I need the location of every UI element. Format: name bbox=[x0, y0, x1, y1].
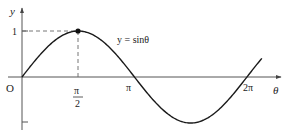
y-axis-label: y bbox=[9, 5, 15, 17]
x-tick-label-pi: π bbox=[126, 82, 131, 93]
origin-label: O bbox=[6, 82, 14, 94]
x-tick-label-pi-half-den: 2 bbox=[75, 98, 80, 109]
x-tick-label-2pi: 2π bbox=[243, 82, 253, 93]
sine-chart: y 1 O π 2 π 2π θ y = sinθ bbox=[0, 0, 287, 132]
y-tick-label-1: 1 bbox=[12, 26, 17, 37]
x-axis-label: θ bbox=[273, 84, 279, 96]
x-tick-label-pi-half-num: π bbox=[74, 85, 79, 96]
peak-point bbox=[75, 28, 80, 33]
function-label: y = sinθ bbox=[117, 34, 149, 45]
